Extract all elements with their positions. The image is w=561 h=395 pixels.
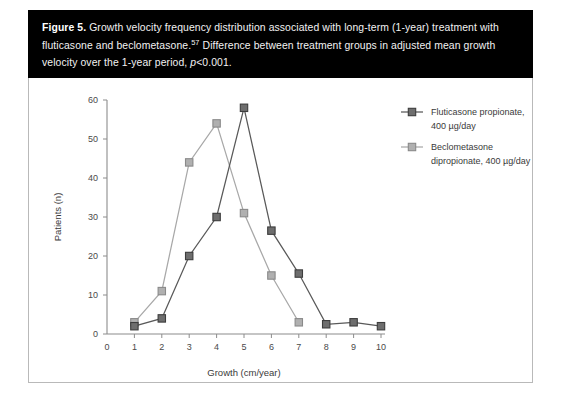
chart-legend: Fluticasone propionate,400 µg/dayBeclome… xyxy=(401,107,531,166)
legend-label-line2: dipropionate, 400 µg/day xyxy=(431,156,531,166)
data-point-marker xyxy=(268,272,275,279)
series-line xyxy=(134,108,381,326)
x-tick-label: 10 xyxy=(376,342,386,352)
x-axis-title: Growth (cm/year) xyxy=(207,367,280,378)
y-tick-label: 0 xyxy=(93,329,98,339)
caption-line-2a: fluticasone and beclometasone. xyxy=(42,40,191,51)
caption-line-1: Growth velocity frequency distribution a… xyxy=(86,22,499,33)
data-point-marker xyxy=(186,159,193,166)
series-fluticasone xyxy=(131,104,385,330)
x-tick-label: 2 xyxy=(159,342,164,352)
x-tick-label: 0 xyxy=(104,342,109,352)
data-point-marker xyxy=(323,321,330,328)
x-axis-ticks: 012345678910 xyxy=(104,334,386,352)
legend-marker-swatch xyxy=(408,143,415,150)
caption-reference-superscript: 57 xyxy=(191,37,199,46)
caption-line-3a: over the 1-year period, xyxy=(80,57,190,68)
legend-label-line2: 400 µg/day xyxy=(431,121,476,131)
data-point-marker xyxy=(268,227,275,234)
y-axis-ticks: 0102030405060 xyxy=(88,95,107,339)
series-beclometasone xyxy=(131,120,303,326)
data-point-marker xyxy=(240,209,247,216)
data-point-marker xyxy=(213,120,220,127)
data-point-marker xyxy=(158,287,165,294)
figure-caption-text: Figure 5. Growth velocity frequency dist… xyxy=(42,19,519,72)
data-point-marker xyxy=(213,213,220,220)
y-tick-label: 50 xyxy=(88,134,98,144)
data-point-marker xyxy=(131,323,138,330)
data-point-marker xyxy=(158,315,165,322)
caption-line-3b: <0.001. xyxy=(196,57,232,68)
legend-marker-swatch xyxy=(408,108,415,115)
data-point-marker xyxy=(350,319,357,326)
x-tick-label: 7 xyxy=(296,342,301,352)
x-tick-label: 4 xyxy=(214,342,219,352)
figure-panel: 0102030405060 012345678910 Growth (cm/ye… xyxy=(28,78,533,383)
data-point-marker xyxy=(295,270,302,277)
y-tick-label: 40 xyxy=(88,173,98,183)
chart-plot-area: 0102030405060 012345678910 Growth (cm/ye… xyxy=(29,78,534,383)
data-point-marker xyxy=(240,104,247,111)
growth-velocity-line-chart: 0102030405060 012345678910 Growth (cm/ye… xyxy=(29,78,534,383)
x-tick-label: 6 xyxy=(269,342,274,352)
legend-label-line1: Beclometasone xyxy=(431,142,493,152)
y-tick-label: 30 xyxy=(88,212,98,222)
x-tick-label: 9 xyxy=(351,342,356,352)
x-tick-label: 8 xyxy=(324,342,329,352)
x-tick-label: 1 xyxy=(132,342,137,352)
y-tick-label: 20 xyxy=(88,251,98,261)
figure-caption-bar: Figure 5. Growth velocity frequency dist… xyxy=(28,10,533,78)
legend-label-line1: Fluticasone propionate, xyxy=(431,107,525,117)
data-point-marker xyxy=(377,323,384,330)
data-point-marker xyxy=(186,252,193,259)
y-tick-label: 10 xyxy=(88,290,98,300)
x-tick-label: 5 xyxy=(241,342,246,352)
y-axis-title: Patients (n) xyxy=(52,193,63,242)
x-tick-label: 3 xyxy=(187,342,192,352)
figure-number: Figure 5. xyxy=(42,22,86,33)
y-tick-label: 60 xyxy=(88,95,98,105)
data-point-marker xyxy=(295,319,302,326)
